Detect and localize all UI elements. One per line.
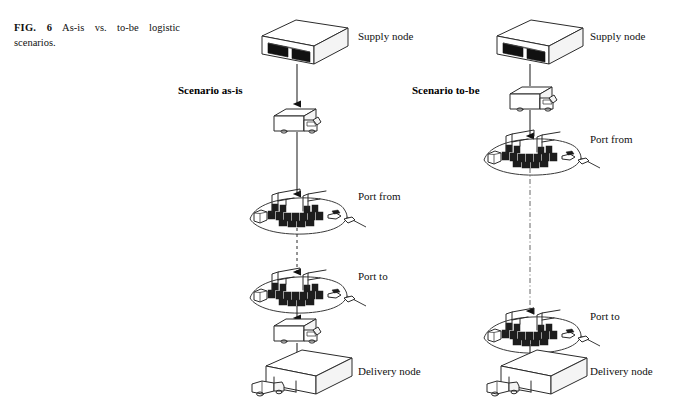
- as-is-port-from-icon: [250, 189, 366, 234]
- label-left-port-from: Port from: [358, 190, 400, 202]
- as-is-truck-icon-2: [274, 319, 321, 343]
- to-be-port-to-icon: [484, 308, 600, 353]
- figure-canvas: FIG. 6 As-is vs. to-be logistic scenario…: [0, 0, 676, 400]
- to-be-port-from-icon: [484, 130, 600, 175]
- as-is-delivery-node-icon: [252, 350, 352, 396]
- as-is-port-to-icon: [250, 268, 366, 313]
- scenario-to-be-title: Scenario to-be: [412, 84, 480, 96]
- label-left-delivery-node: Delivery node: [358, 365, 421, 377]
- to-be-truck-icon: [510, 87, 557, 111]
- to-be-supply-node-icon: [497, 20, 583, 64]
- label-left-supply-node: Supply node: [358, 30, 413, 42]
- scenario-as-is-title: Scenario as-is: [178, 84, 242, 96]
- as-is-supply-node-icon: [262, 20, 348, 64]
- label-left-port-to: Port to: [358, 270, 388, 282]
- label-right-delivery-node: Delivery node: [590, 365, 653, 377]
- label-right-port-to: Port to: [590, 310, 620, 322]
- diagram-artwork: [0, 0, 676, 400]
- figure-number: FIG. 6: [14, 22, 52, 33]
- figure-caption: FIG. 6 As-is vs. to-be logistic scenario…: [14, 20, 180, 50]
- as-is-truck-icon-1: [274, 109, 321, 133]
- label-right-supply-node: Supply node: [590, 30, 645, 42]
- to-be-delivery-node-icon: [487, 350, 587, 396]
- label-right-port-from: Port from: [590, 133, 632, 145]
